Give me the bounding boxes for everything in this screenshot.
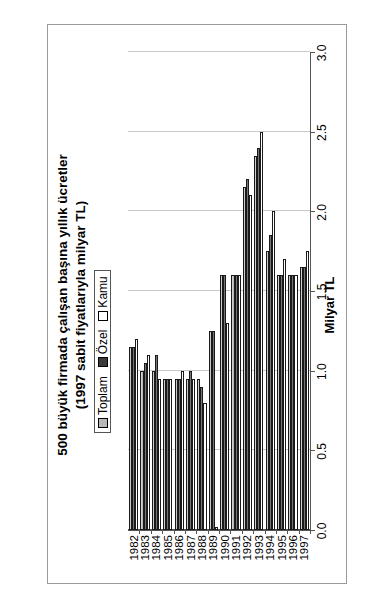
- category-label-1985: 1985: [162, 535, 174, 561]
- category-label-1997: 1997: [298, 535, 310, 561]
- legend-swatch-icon: [98, 357, 108, 367]
- legend-label: Kamu: [96, 276, 110, 307]
- category-label-1988: 1988: [196, 535, 208, 561]
- bar-group-1985: 1985: [162, 52, 173, 530]
- bar-group-1984: 1984: [151, 52, 162, 530]
- bar-özel-1989[interactable]: [212, 331, 215, 530]
- bar-group-1988: 1988: [196, 52, 207, 530]
- legend-item-toplam[interactable]: Toplam: [96, 376, 110, 428]
- bar-kamu-1985[interactable]: [169, 379, 172, 530]
- chart-canvas: 500 büyük firmada çalışan başına yıllık …: [50, 27, 346, 583]
- bar-kamu-1997[interactable]: [306, 251, 309, 530]
- bar-kamu-1992[interactable]: [249, 195, 252, 530]
- legend-label: Toplam: [96, 376, 110, 415]
- bar-kamu-1990[interactable]: [226, 323, 229, 530]
- bar-kamu-1987[interactable]: [192, 379, 195, 530]
- category-tick: [230, 530, 231, 534]
- category-label-1984: 1984: [150, 535, 162, 561]
- category-tick: [299, 530, 300, 534]
- bar-group-1989: 1989: [208, 52, 219, 530]
- chart-frame: 500 büyük firmada çalışan başına yıllık …: [47, 24, 347, 584]
- bar-kamu-1989[interactable]: [215, 527, 218, 530]
- category-label-1991: 1991: [230, 535, 242, 561]
- legend-label: Özel: [96, 330, 110, 355]
- value-axis-title: Milyar TL: [322, 27, 337, 583]
- category-tick: [253, 530, 254, 534]
- chart-title-line2: (1997 sabit fiyatlarıyla milyar TL): [72, 27, 90, 583]
- bar-kamu-1995[interactable]: [283, 259, 286, 530]
- category-label-1986: 1986: [173, 535, 185, 561]
- chart-legend: ToplamÖzelKamu: [94, 270, 111, 433]
- category-label-1994: 1994: [264, 535, 276, 561]
- category-tick: [174, 530, 175, 534]
- category-tick: [276, 530, 277, 534]
- bar-kamu-1988[interactable]: [203, 403, 206, 530]
- category-tick: [265, 530, 266, 534]
- bar-group-1992: 1992: [242, 52, 253, 530]
- bar-kamu-1983[interactable]: [147, 355, 150, 530]
- category-label-1996: 1996: [287, 535, 299, 561]
- category-label-1987: 1987: [185, 535, 197, 561]
- bar-group-1982: 1982: [128, 52, 139, 530]
- category-label-1990: 1990: [219, 535, 231, 561]
- axis-line: [310, 53, 311, 531]
- bar-group-1991: 1991: [230, 52, 241, 530]
- category-label-1982: 1982: [128, 535, 140, 561]
- bar-group-1996: 1996: [287, 52, 298, 530]
- bar-group-1993: 1993: [253, 52, 264, 530]
- bar-kamu-1993[interactable]: [260, 132, 263, 530]
- legend-swatch-icon: [98, 418, 108, 428]
- legend-swatch-icon: [98, 311, 108, 321]
- category-tick: [139, 530, 140, 534]
- category-tick: [162, 530, 163, 534]
- category-tick: [242, 530, 243, 534]
- bar-group-1997: 1997: [299, 52, 310, 530]
- bar-group-1994: 1994: [265, 52, 276, 530]
- legend-item-özel[interactable]: Özel: [96, 330, 110, 368]
- bar-kamu-1986[interactable]: [181, 371, 184, 530]
- bar-group-1986: 1986: [174, 52, 185, 530]
- legend-item-kamu[interactable]: Kamu: [96, 276, 110, 320]
- category-label-1993: 1993: [253, 535, 265, 561]
- category-label-1992: 1992: [241, 535, 253, 561]
- category-tick: [151, 530, 152, 534]
- bar-group-1990: 1990: [219, 52, 230, 530]
- chart-title: 500 büyük firmada çalışan başına yıllık …: [54, 27, 90, 583]
- category-tick: [196, 530, 197, 534]
- bar-kamu-1996[interactable]: [294, 275, 297, 530]
- plot-area: 1982198319841985198619871988198919901991…: [128, 53, 310, 531]
- category-tick: [219, 530, 220, 534]
- bar-kamu-1982[interactable]: [135, 339, 138, 530]
- category-tick: [287, 530, 288, 534]
- chart-rotation-wrapper: 500 büyük firmada çalışan başına yıllık …: [50, 27, 346, 583]
- bar-group-1987: 1987: [185, 52, 196, 530]
- bar-kamu-1991[interactable]: [238, 275, 241, 530]
- chart-title-line1: 500 büyük firmada çalışan başına yıllık …: [54, 27, 72, 583]
- bar-kamu-1994[interactable]: [272, 211, 275, 530]
- category-tick: [208, 530, 209, 534]
- category-label-1989: 1989: [207, 535, 219, 561]
- bar-group-1983: 1983: [139, 52, 150, 530]
- category-label-1983: 1983: [139, 535, 151, 561]
- bar-kamu-1984[interactable]: [158, 379, 161, 530]
- category-label-1995: 1995: [276, 535, 288, 561]
- category-tick: [185, 530, 186, 534]
- bar-group-1995: 1995: [276, 52, 287, 530]
